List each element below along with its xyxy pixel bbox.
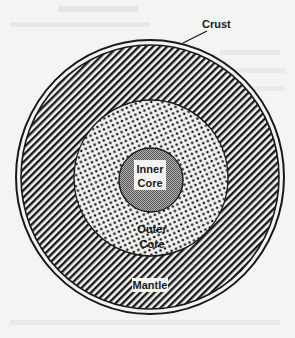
- inner-core-label-line1: Inner: [137, 163, 165, 175]
- mantle-label: Mantle: [133, 279, 168, 291]
- crust-label: Crust: [202, 18, 231, 30]
- earth-layers-diagram: Inner Core Outer Core Mantle Crust: [0, 0, 295, 338]
- outer-core-label-line1: Outer: [137, 223, 167, 235]
- crust-leader-line: [183, 31, 207, 43]
- outer-core-label-line2: Core: [139, 238, 164, 250]
- inner-core-label-line2: Core: [137, 177, 162, 189]
